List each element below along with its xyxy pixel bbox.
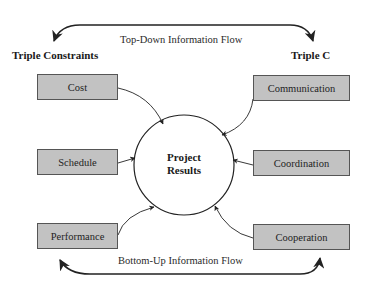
cooperation-connector	[215, 206, 253, 238]
performance-connector	[118, 207, 154, 235]
bottom-flow-label: Bottom-Up Information Flow	[118, 255, 243, 266]
box-communication: Communication	[253, 75, 350, 101]
box-coordination: Coordination	[253, 150, 350, 176]
box-performance: Performance	[37, 223, 118, 249]
box-cooperation: Cooperation	[253, 224, 350, 250]
schedule-connector	[118, 158, 135, 163]
center-line-2: Results	[144, 164, 224, 177]
top-flow-label: Top-Down Information Flow	[120, 34, 242, 45]
communication-connector	[222, 99, 253, 135]
cost-connector	[118, 88, 163, 124]
triple-constraints-heading: Triple Constraints	[12, 49, 98, 61]
triple-c-heading: Triple C	[291, 49, 330, 61]
box-cost: Cost	[37, 74, 118, 100]
coordination-connector	[233, 160, 253, 165]
box-schedule: Schedule	[37, 149, 118, 175]
center-line-1: Project	[144, 151, 224, 164]
project-results-label: Project Results	[144, 151, 224, 177]
